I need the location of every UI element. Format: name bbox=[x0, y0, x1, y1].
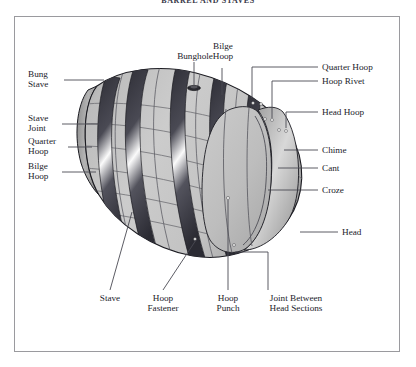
hoop-rivet bbox=[271, 119, 274, 122]
label-croze: Croze bbox=[322, 185, 344, 195]
hoop-rivet bbox=[285, 130, 288, 133]
label-head: Head bbox=[342, 227, 361, 237]
label-stave: Stave bbox=[86, 293, 134, 303]
label-quarter-hoop-left: Quarter Hoop bbox=[28, 136, 72, 157]
label-bilge-hoop-left: Bilge Hoop bbox=[28, 161, 68, 182]
label-hoop-rivet: Hoop Rivet bbox=[322, 76, 365, 86]
label-bilge-hoop-top: Bilge Hoop bbox=[206, 41, 240, 62]
label-head-hoop: Head Hoop bbox=[322, 107, 364, 117]
hoop-rivet bbox=[278, 129, 281, 132]
barrel-head-group bbox=[202, 107, 299, 253]
leader-quarter-right bbox=[252, 67, 318, 98]
barrel-body-group bbox=[77, 66, 312, 262]
label-cant: Cant bbox=[322, 163, 339, 173]
hoop-fastener-mark bbox=[233, 244, 236, 247]
leader-stave bbox=[110, 212, 132, 290]
bunghole-group bbox=[188, 85, 201, 90]
label-hoop-punch: Hoop Punch bbox=[204, 293, 252, 314]
bunghole-inner bbox=[190, 86, 197, 89]
label-stave-joint: Stave Joint bbox=[28, 113, 68, 134]
hoop-rivet bbox=[264, 118, 267, 121]
label-bung-stave: Bung Stave bbox=[28, 69, 68, 90]
label-joint-between-head-sections: Joint Between Head Sections bbox=[256, 293, 336, 314]
label-chime: Chime bbox=[322, 145, 347, 155]
label-quarter-hoop-right: Quarter Hoop bbox=[322, 62, 373, 72]
label-hoop-fastener: Hoop Fastener bbox=[139, 293, 187, 314]
hoop-rivet bbox=[252, 102, 255, 105]
hoop-rivet bbox=[260, 103, 263, 106]
diagram-page: BARREL AND STAVES bbox=[0, 0, 416, 367]
leader-head-joint bbox=[235, 252, 268, 290]
hoop-punch-mark bbox=[226, 196, 229, 199]
